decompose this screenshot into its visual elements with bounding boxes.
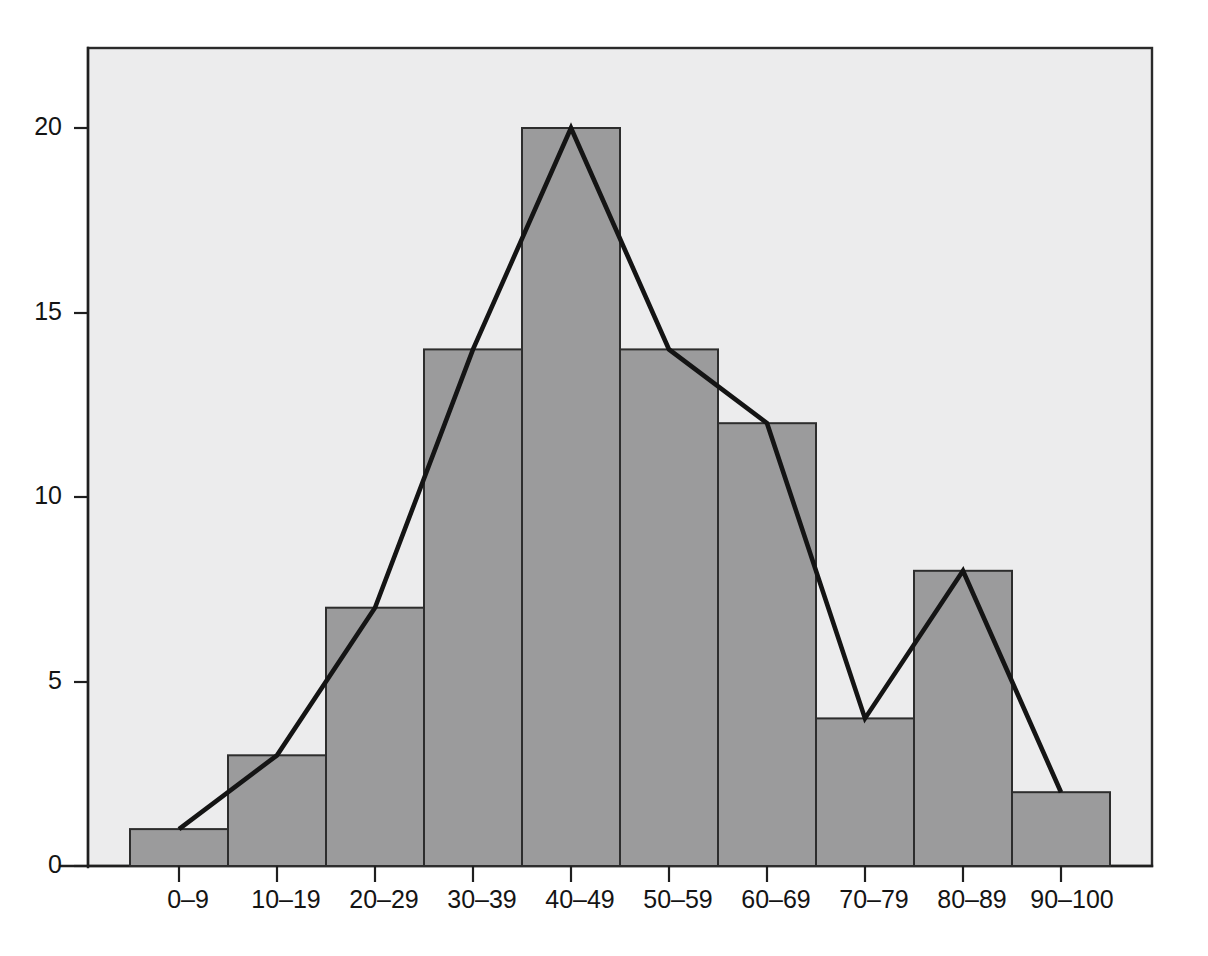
chart-canvas: 20 15 10 5 0	[0, 0, 1208, 956]
x-tick-label-30-39: 30–39	[447, 885, 517, 913]
x-tick-label-40-49: 40–49	[545, 885, 615, 913]
bar-50-59	[620, 349, 718, 866]
x-tick-label-20-29: 20–29	[349, 885, 419, 913]
bar-60-69	[718, 423, 816, 866]
y-tick-label-20: 20	[34, 112, 62, 140]
x-axis-ticks	[179, 866, 1061, 882]
bar-0-9	[130, 829, 228, 866]
x-tick-label-90-100: 90–100	[1030, 885, 1113, 913]
bar-10-19	[228, 755, 326, 866]
y-axis-tick-labels: 20 15 10 5 0	[34, 112, 62, 878]
y-tick-label-5: 5	[48, 666, 62, 694]
x-tick-label-10-19: 10–19	[251, 885, 321, 913]
x-tick-label-0-9: 0–9	[167, 885, 209, 913]
bar-70-79	[816, 718, 914, 866]
bar-40-49	[522, 128, 620, 866]
y-tick-label-0: 0	[48, 850, 62, 878]
x-tick-label-70-79: 70–79	[839, 885, 909, 913]
y-tick-label-15: 15	[34, 297, 62, 325]
x-tick-label-50-59: 50–59	[643, 885, 713, 913]
bar-80-89	[914, 571, 1012, 866]
bar-30-39	[424, 349, 522, 866]
x-tick-label-80-89: 80–89	[937, 885, 1007, 913]
histogram-chart-figure: 20 15 10 5 0	[0, 0, 1208, 956]
x-tick-label-60-69: 60–69	[741, 885, 811, 913]
bar-90-100	[1012, 792, 1110, 866]
x-axis-tick-labels: 0–9 10–19 20–29 30–39 40–49 50–59 60–69 …	[167, 885, 1114, 913]
bar-20-29	[326, 608, 424, 866]
y-tick-label-10: 10	[34, 481, 62, 509]
y-axis-ticks	[74, 128, 88, 866]
